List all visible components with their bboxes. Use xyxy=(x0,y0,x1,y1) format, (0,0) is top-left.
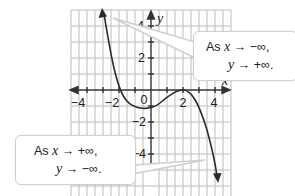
tick-x-minus-2: −2 xyxy=(105,96,119,110)
tick-x-4: 4 xyxy=(211,96,218,110)
arrow-down-icon xyxy=(213,173,222,183)
callout-text: → −∞. xyxy=(62,162,101,176)
callout-text: As xyxy=(34,144,52,158)
callout-end-behavior-left: As x → −∞, y → +∞. xyxy=(193,31,295,81)
callout-text: → +∞. xyxy=(234,58,273,72)
x-axis xyxy=(70,87,230,94)
axis-label-y: y xyxy=(155,11,164,26)
tick-x-minus-4: −4 xyxy=(71,96,85,110)
tick-x-2: 2 xyxy=(180,96,187,110)
tick-origin: 0 xyxy=(141,93,148,107)
callout-text: → −∞, xyxy=(230,40,269,54)
callout-end-behavior-right: As x → +∞, y → −∞. xyxy=(15,135,136,185)
callout-text: → +∞, xyxy=(58,144,97,158)
tick-y-minus-2: −2 xyxy=(132,115,146,129)
callout-text: As xyxy=(206,40,224,54)
tick-y-2: 2 xyxy=(138,51,145,65)
